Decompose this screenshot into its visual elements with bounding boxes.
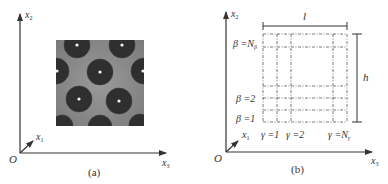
axis-label-x1: x1: [241, 129, 249, 141]
dimension-l: [263, 22, 347, 30]
figure-canvas: x2 x1 x3 O: [0, 0, 388, 184]
row-label-beta-2: β =2: [235, 93, 255, 104]
dimension-h-label: h: [363, 71, 369, 83]
col-label-gamma-1: γ =1: [261, 129, 279, 140]
caption-a: (a): [88, 166, 101, 179]
axis-label-x3: x3: [161, 157, 169, 169]
col-label-gamma-N: γ =Nγ: [328, 129, 351, 141]
axis-label-x2: x2: [230, 8, 238, 20]
axis-label-x1: x1: [35, 131, 43, 143]
dimension-h: [352, 34, 362, 122]
axis-label-x3: x3: [370, 155, 378, 167]
micrograph-image: [43, 32, 157, 139]
row-label-beta-1: β =1: [235, 113, 255, 124]
row-label-beta-N: β =Nβ: [232, 38, 257, 50]
axis-x1: [226, 141, 238, 152]
origin-label: O: [9, 153, 17, 165]
dimension-l-label: l: [303, 10, 306, 22]
origin-label: O: [214, 152, 222, 164]
axis-label-x2: x2: [24, 9, 32, 21]
caption-b: (b): [291, 163, 304, 176]
cell-grid: [263, 34, 347, 122]
panel-a: x2 x1 x3 O: [9, 9, 169, 179]
axis-x1: [20, 141, 33, 153]
col-label-gamma-2: γ =2: [286, 129, 304, 140]
panel-b: x2 x1 x3 O l h: [214, 8, 378, 176]
